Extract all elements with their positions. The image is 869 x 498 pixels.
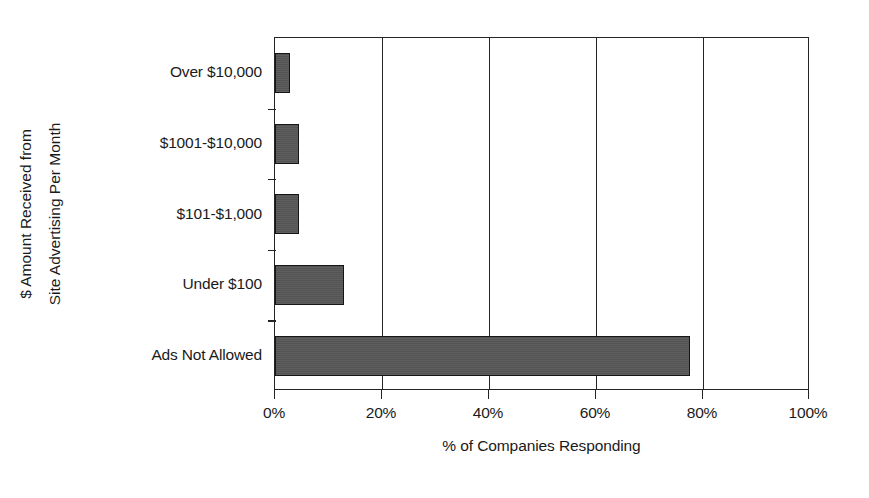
bar-row-101-1000 [275,179,808,250]
y-tick-label-1001-10000: $1001-$10,000 [160,134,262,152]
bar-101-1000 [275,194,299,234]
x-tick-mark-100 [808,390,809,399]
x-tick-label-80: 80% [687,404,717,422]
x-axis-title: % of Companies Responding [274,437,809,455]
bar-row-over-10000 [275,38,808,109]
y-tick-label-101-1000: $101-$1,000 [177,205,262,223]
x-tick-label-100: 100% [789,404,828,422]
x-tick-label-40: 40% [473,404,503,422]
bar-row-1001-10000 [275,109,808,180]
y-axis-title-line-1: $ Amount Received from [17,129,35,299]
bar-under-100 [275,265,344,305]
x-tick-mark-80 [702,390,703,399]
y-axis-title-line-2: Site Advertising Per Month [46,122,64,305]
x-tick-label-0: 0% [263,404,285,422]
x-tick-label-20: 20% [366,404,396,422]
x-tick-mark-20 [381,390,382,399]
bar-row-ads-not-allowed [275,320,808,391]
x-tick-mark-40 [488,390,489,399]
y-tick-label-over-10000: Over $10,000 [170,63,262,81]
bar-over-10000 [275,53,290,93]
bar-1001-10000 [275,124,299,164]
bar-row-under-100 [275,250,808,321]
x-tick-mark-0 [274,390,275,399]
y-tick-label-under-100: Under $100 [182,275,262,293]
bar-chart-figure: $ Amount Received from Site Advertising … [0,0,869,498]
y-tick-label-ads-not-allowed: Ads Not Allowed [151,346,262,364]
plot-area [274,37,809,390]
y-axis-title: $ Amount Received from Site Advertising … [8,37,68,390]
bar-series [275,38,808,389]
x-tick-label-60: 60% [580,404,610,422]
bar-ads-not-allowed [275,336,690,376]
y-axis-tick-labels: Over $10,000 $1001-$10,000 $101-$1,000 U… [90,37,268,390]
x-tick-mark-60 [595,390,596,399]
